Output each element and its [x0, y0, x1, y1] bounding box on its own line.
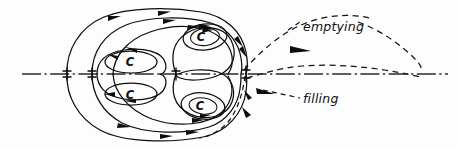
- vortex-flow-diagram: C C C C emptying filling: [0, 0, 458, 149]
- filling-label: filling: [303, 91, 339, 106]
- vortex-core-labels: C C C C: [126, 30, 206, 113]
- vortex-label-upper-outer: C: [197, 30, 206, 44]
- diagram-canvas: C C C C: [0, 0, 458, 149]
- vortex-label-upper-inner: C: [126, 55, 135, 69]
- filling-streamline: [247, 65, 421, 78]
- emptying-label: emptying: [303, 19, 364, 34]
- vortex-label-lower-outer: C: [196, 99, 205, 113]
- vortex-label-lower-inner: C: [126, 88, 135, 102]
